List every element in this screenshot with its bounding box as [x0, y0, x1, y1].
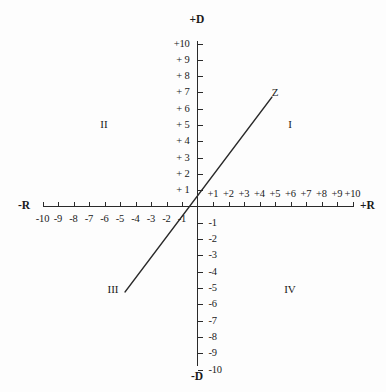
x-tick-label--3: -3 — [147, 214, 155, 225]
y-tick-label-4: + 4 — [150, 136, 190, 147]
y-tick-label-6: + 6 — [150, 103, 190, 114]
x-tick-label-10: +10 — [345, 189, 361, 200]
y-tick-label-8: + 8 — [150, 71, 190, 82]
x-tick-label-4: +4 — [254, 189, 265, 200]
axes-and-line-graphic — [0, 0, 386, 392]
y-tick-label--10: -10 — [209, 364, 222, 375]
line-z — [125, 97, 272, 292]
y-tick-label--1: -1 — [209, 218, 217, 229]
x-tick-label--5: -5 — [116, 214, 124, 225]
x-tick-label--2: -2 — [162, 214, 170, 225]
y-tick-label--3: -3 — [209, 250, 217, 261]
y-tick-label-2: + 2 — [150, 169, 190, 180]
y-tick-label-3: + 3 — [150, 152, 190, 163]
x-tick-label-2: +2 — [223, 189, 234, 200]
x-tick-label--8: -8 — [69, 214, 77, 225]
y-tick-label-7: + 7 — [150, 87, 190, 98]
x-tick-label--1: -1 — [178, 214, 186, 225]
line-label-z: Z — [272, 87, 279, 98]
quadrant-label-iii: III — [108, 284, 119, 295]
x-tick-label-1: +1 — [208, 189, 219, 200]
y-tick-label-9: + 9 — [150, 55, 190, 66]
coordinate-plane-figure: +D -D -R +R II I III IV Z -10-9-8-7-6-5-… — [0, 0, 386, 392]
y-tick-label--6: -6 — [209, 299, 217, 310]
axis-label-negative-d: -D — [191, 371, 203, 383]
quadrant-label-iv: IV — [284, 284, 296, 295]
y-tick-label--4: -4 — [209, 266, 217, 277]
y-tick-label--5: -5 — [209, 283, 217, 294]
y-tick-label--2: -2 — [209, 234, 217, 245]
quadrant-label-ii: II — [100, 119, 107, 130]
x-tick-label-9: +9 — [332, 189, 343, 200]
quadrant-label-i: I — [288, 119, 292, 130]
axis-label-positive-r: +R — [360, 200, 375, 212]
y-tick-label--9: -9 — [209, 348, 217, 359]
x-tick-label--4: -4 — [131, 214, 139, 225]
x-tick-label--9: -9 — [54, 214, 62, 225]
x-tick-label--7: -7 — [85, 214, 93, 225]
y-axis-ticks — [198, 45, 203, 371]
x-tick-label--10: -10 — [36, 214, 49, 225]
x-tick-label-3: +3 — [239, 189, 250, 200]
x-tick-label--6: -6 — [100, 214, 108, 225]
x-tick-label-8: +8 — [316, 189, 327, 200]
axis-label-positive-d: +D — [190, 14, 205, 26]
x-axis-ticks — [44, 202, 354, 207]
y-tick-label-1: + 1 — [150, 185, 190, 196]
y-tick-label-5: + 5 — [150, 120, 190, 131]
axis-label-negative-r: -R — [18, 200, 30, 212]
y-tick-label--8: -8 — [209, 332, 217, 343]
y-tick-label-10: +10 — [150, 38, 190, 49]
x-tick-label-7: +7 — [301, 189, 312, 200]
x-tick-label-5: +5 — [270, 189, 281, 200]
x-tick-label-6: +6 — [285, 189, 296, 200]
y-tick-label--7: -7 — [209, 315, 217, 326]
